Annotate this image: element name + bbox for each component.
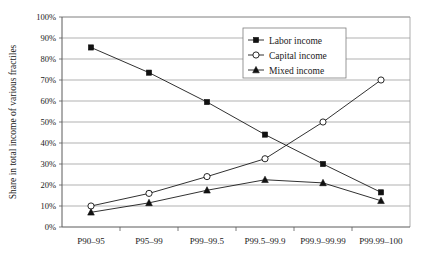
x-tick-label: P99.99–100 bbox=[359, 236, 403, 246]
chart-figure: 100%90%80%70%60%50%40%30%20%10%0% P90–95… bbox=[0, 0, 435, 255]
marker-open-circle bbox=[204, 174, 210, 180]
y-tick-label: 60% bbox=[40, 96, 56, 106]
y-tick-label: 80% bbox=[40, 54, 56, 64]
x-tick-labels: P90–95P95–99P99–99.5P99.5–99.9P99.9–99.9… bbox=[77, 236, 403, 246]
legend-item-label: Labor income bbox=[269, 36, 322, 46]
x-tick-label: P90–95 bbox=[77, 236, 105, 246]
marker-open-circle bbox=[146, 190, 152, 196]
y-tick-label: 50% bbox=[40, 117, 56, 127]
y-axis-title-text: Share in total income of various fractil… bbox=[8, 44, 18, 199]
marker-open-circle bbox=[378, 77, 384, 83]
marker-filled-square bbox=[378, 190, 383, 195]
marker-open-circle bbox=[253, 52, 259, 58]
marker-filled-square bbox=[146, 70, 151, 75]
marker-filled-square bbox=[204, 99, 209, 104]
y-tick-label: 90% bbox=[40, 33, 56, 43]
x-tick-label: P95–99 bbox=[135, 236, 163, 246]
y-tick-label: 30% bbox=[40, 159, 56, 169]
marker-open-circle bbox=[262, 156, 268, 162]
marker-open-circle bbox=[320, 119, 326, 125]
legend-item-label: Capital income bbox=[269, 51, 327, 61]
y-tick-label: 0% bbox=[45, 222, 56, 232]
marker-filled-square bbox=[88, 45, 93, 50]
x-tick-marks bbox=[120, 227, 352, 231]
y-tick-label: 10% bbox=[40, 201, 56, 211]
y-tick-label: 40% bbox=[40, 138, 56, 148]
line-chart-canvas: 100%90%80%70%60%50%40%30%20%10%0% P90–95… bbox=[0, 0, 435, 255]
legend-item-label: Mixed income bbox=[269, 66, 324, 76]
marker-filled-square bbox=[262, 132, 267, 137]
marker-filled-square bbox=[253, 37, 258, 42]
x-tick-label: P99–99.5 bbox=[190, 236, 225, 246]
y-tick-label: 20% bbox=[40, 180, 56, 190]
y-tick-labels: 100%90%80%70%60%50%40%30%20%10%0% bbox=[36, 12, 56, 232]
y-axis-title: Share in total income of various fractil… bbox=[8, 44, 18, 199]
marker-filled-square bbox=[320, 161, 325, 166]
x-tick-label: P99.5–99.9 bbox=[244, 236, 286, 246]
y-tick-label: 100% bbox=[36, 12, 56, 22]
y-tick-label: 70% bbox=[40, 75, 56, 85]
chart-legend: Labor incomeCapital incomeMixed income bbox=[243, 28, 346, 78]
x-tick-label: P99.9–99.99 bbox=[300, 236, 346, 246]
